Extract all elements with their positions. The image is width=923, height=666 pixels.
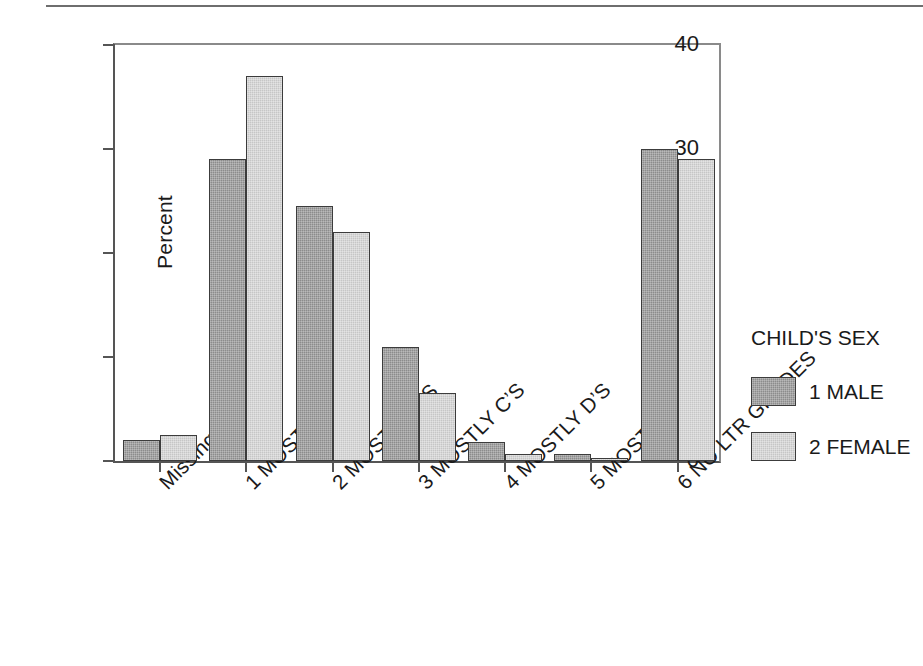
bar-male — [123, 440, 160, 461]
bar-chart-figure: Percent 010203040 Missing1 MOSTLY A’S2 M… — [0, 0, 923, 666]
bar-female — [333, 232, 370, 461]
bar-female — [678, 159, 715, 461]
bar-female — [591, 458, 628, 461]
legend-entries: 1 MALE2 FEMALE — [751, 377, 916, 461]
bar-male — [382, 347, 419, 461]
legend-label: 2 FEMALE — [809, 436, 911, 457]
y-tick-mark — [103, 252, 115, 254]
bar-male — [554, 454, 591, 461]
y-axis-label: Percent — [153, 152, 177, 312]
bar-male — [641, 149, 678, 461]
bar-female — [419, 393, 456, 461]
bar-male — [468, 442, 505, 461]
y-tick-mark — [103, 148, 115, 150]
y-tick-label: 40 — [639, 33, 699, 55]
legend-title: CHILD'S SEX — [751, 327, 916, 348]
y-tick-mark — [103, 460, 115, 462]
bar-male — [209, 159, 246, 461]
bar-female — [160, 435, 197, 461]
bar-male — [296, 206, 333, 461]
plot-area: Percent 010203040 Missing1 MOSTLY A’S2 M… — [113, 43, 721, 463]
legend-entry: 2 FEMALE — [751, 432, 916, 461]
legend-entry: 1 MALE — [751, 377, 916, 406]
y-tick-mark — [103, 356, 115, 358]
legend-swatch-male — [751, 377, 796, 406]
bar-female — [505, 454, 542, 461]
legend-swatch-female — [751, 432, 796, 461]
y-tick-mark — [103, 44, 115, 46]
legend-label: 1 MALE — [809, 381, 884, 402]
bar-female — [246, 76, 283, 461]
chart-legend: CHILD'S SEX 1 MALE2 FEMALE — [751, 327, 916, 487]
